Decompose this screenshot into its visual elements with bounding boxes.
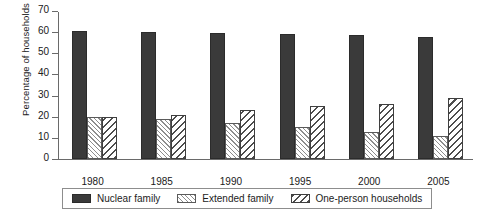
x-axis-tick-label: 1980 <box>58 176 127 187</box>
x-axis-tick-label: 2000 <box>335 176 404 187</box>
bar <box>156 119 171 159</box>
y-axis-tick-label: 70 <box>38 4 49 15</box>
y-axis-tick: 50 <box>52 53 58 54</box>
bar-group <box>72 12 117 159</box>
y-axis-tick-label: 20 <box>38 110 49 121</box>
bar-chart-figure: Percentage of households 010203040506070… <box>0 0 484 221</box>
bar <box>418 37 433 159</box>
y-axis-tick: 0 <box>52 159 58 160</box>
y-axis-tick: 60 <box>52 32 58 33</box>
legend-swatch-icon <box>177 194 196 203</box>
y-axis-tick: 20 <box>52 117 58 118</box>
y-axis-tick-label: 0 <box>43 152 49 163</box>
bar <box>310 106 325 159</box>
x-axis-line <box>58 159 473 160</box>
bar <box>210 33 225 159</box>
bar-group <box>141 12 186 159</box>
bar <box>141 32 156 159</box>
bar <box>240 110 255 159</box>
bar-group <box>349 12 394 159</box>
legend-label: Nuclear family <box>97 193 160 204</box>
legend-item[interactable]: One-person households <box>291 193 423 204</box>
bar <box>448 98 463 159</box>
y-axis-tick-label: 10 <box>38 131 49 142</box>
bar <box>433 136 448 159</box>
y-axis-tick: 40 <box>52 74 58 75</box>
bar-group <box>280 12 325 159</box>
bar <box>280 34 295 159</box>
y-axis-tick-label: 40 <box>38 67 49 78</box>
bar <box>379 104 394 159</box>
bar-group <box>418 12 463 159</box>
y-axis-tick: 10 <box>52 138 58 139</box>
bar <box>364 132 379 159</box>
legend-label: One-person households <box>316 193 423 204</box>
legend-swatch-icon <box>72 194 91 203</box>
legend-item[interactable]: Extended family <box>177 193 273 204</box>
legend-swatch-icon <box>291 194 310 203</box>
legend-label: Extended family <box>202 193 273 204</box>
y-axis-tick: 70 <box>52 11 58 12</box>
plot-area: 010203040506070 198019851990199520002005 <box>58 12 473 160</box>
y-axis-tick-label: 60 <box>38 25 49 36</box>
y-axis-title: Percentage of households <box>20 0 31 140</box>
bar <box>225 123 240 159</box>
y-axis-tick-label: 30 <box>38 89 49 100</box>
bar <box>295 127 310 159</box>
bar <box>349 35 364 159</box>
y-axis-tick-label: 50 <box>38 46 49 57</box>
y-axis-tick: 30 <box>52 96 58 97</box>
bar <box>87 117 102 159</box>
legend-item[interactable]: Nuclear family <box>72 193 160 204</box>
chart-legend: Nuclear familyExtended familyOne-person … <box>62 188 432 209</box>
x-axis-tick-label: 2005 <box>404 176 473 187</box>
x-axis-tick-label: 1990 <box>196 176 265 187</box>
bar <box>102 117 117 159</box>
x-axis-tick-label: 1995 <box>266 176 335 187</box>
bar-group <box>210 12 255 159</box>
bar <box>72 31 87 159</box>
x-axis-tick-label: 1985 <box>127 176 196 187</box>
y-axis-line <box>58 12 59 160</box>
bar <box>171 115 186 159</box>
